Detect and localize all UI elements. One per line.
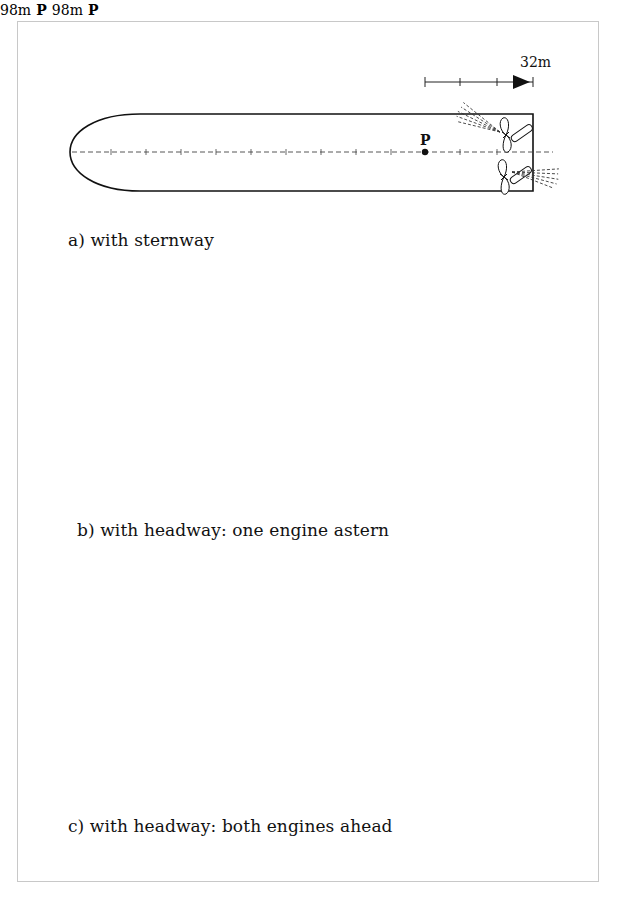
distance-label: 32m	[520, 54, 551, 70]
wash-port	[455, 102, 505, 133]
ship-hull	[70, 114, 533, 191]
arrow-head-icon	[513, 75, 530, 89]
propeller-port-icon	[500, 118, 511, 153]
caption-panel-c: c) with headway: both engines ahead	[68, 816, 393, 836]
rudder-port-icon	[510, 123, 534, 142]
panel-a: 32m P	[70, 54, 562, 194]
propeller-starboard-icon	[498, 160, 509, 195]
wash-starboard	[512, 154, 562, 189]
pivot-point-marker	[422, 149, 428, 155]
ship-pivot-diagram: 32m P	[0, 0, 617, 908]
caption-panel-a: a) with sternway	[68, 230, 214, 250]
rudder-starboard-icon	[509, 165, 533, 184]
pivot-point-label: P	[420, 132, 431, 148]
caption-panel-b: b) with headway: one engine astern	[77, 520, 389, 540]
